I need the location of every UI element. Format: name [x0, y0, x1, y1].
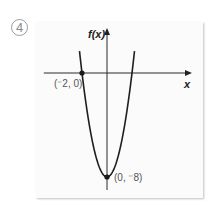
x-axis-arrow-icon: [185, 70, 192, 76]
point-label: (0, ⁻8): [114, 172, 142, 183]
parabola-chart: (⁻2, 0)(0, ⁻8) x f(x): [0, 0, 211, 201]
point-label: (⁻2, 0): [54, 78, 82, 89]
point-marker: [79, 70, 84, 75]
point-marker: [104, 174, 109, 179]
x-axis-label: x: [183, 78, 191, 90]
y-axis-label: f(x): [88, 28, 105, 40]
